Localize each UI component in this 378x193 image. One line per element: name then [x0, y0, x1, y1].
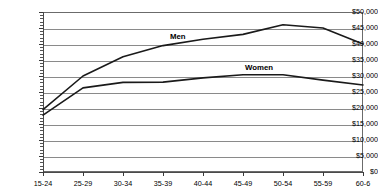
y-axis-label: $30,000 [338, 72, 378, 79]
y-axis-minor-tick [40, 15, 43, 16]
x-axis-tick [363, 172, 364, 176]
y-axis-tick [39, 156, 43, 157]
x-axis-tick [203, 172, 204, 176]
y-axis-minor-tick [40, 143, 43, 144]
gridline [44, 157, 362, 158]
x-axis-tick [163, 172, 164, 176]
y-axis-minor-tick [40, 89, 43, 90]
gridline [44, 29, 362, 30]
y-axis-tick [39, 44, 43, 45]
y-axis-tick [39, 92, 43, 93]
series-label-men: Men [169, 33, 187, 41]
y-axis-label: $10,000 [338, 136, 378, 143]
y-axis-minor-tick [40, 70, 43, 71]
x-axis-tick [323, 172, 324, 176]
gridline [44, 125, 362, 126]
y-axis-minor-tick [40, 31, 43, 32]
y-axis-label: $20,000 [338, 104, 378, 111]
y-axis-label: $40,000 [338, 40, 378, 47]
x-axis-tick [123, 172, 124, 176]
y-axis-tick [39, 28, 43, 29]
y-axis-minor-tick [40, 150, 43, 151]
y-axis-label: $5,000 [338, 152, 378, 159]
x-axis-tick [283, 172, 284, 176]
y-axis-minor-tick [40, 105, 43, 106]
x-axis-tick [243, 172, 244, 176]
y-axis-minor-tick [40, 22, 43, 23]
y-axis-tick [39, 76, 43, 77]
y-axis-minor-tick [40, 57, 43, 58]
y-axis-minor-tick [40, 95, 43, 96]
gridline [44, 61, 362, 62]
y-axis-minor-tick [40, 169, 43, 170]
y-axis-minor-tick [40, 127, 43, 128]
gridline [44, 77, 362, 78]
y-axis-minor-tick [40, 73, 43, 74]
y-axis-minor-tick [40, 146, 43, 147]
y-axis-minor-tick [40, 50, 43, 51]
x-axis-label: 25-29 [74, 180, 92, 188]
gridline [44, 45, 362, 46]
y-axis-label: $45,000 [338, 24, 378, 31]
x-axis-label: 50-54 [274, 180, 292, 188]
y-axis-tick [39, 140, 43, 141]
y-axis-label: $50,000 [338, 8, 378, 15]
y-axis-minor-tick [40, 121, 43, 122]
y-axis-minor-tick [40, 134, 43, 135]
x-axis-tick [43, 172, 44, 176]
plot-area [43, 12, 363, 172]
y-axis-minor-tick [40, 34, 43, 35]
gridline [44, 93, 362, 94]
y-axis-tick [39, 60, 43, 61]
y-axis-minor-tick [40, 166, 43, 167]
y-axis-minor-tick [40, 38, 43, 39]
y-axis-label: $15,000 [338, 120, 378, 127]
x-axis-label: 15-24 [34, 180, 52, 188]
y-axis-minor-tick [40, 66, 43, 67]
y-axis-minor-tick [40, 137, 43, 138]
line-chart: $50,000$45,000$40,000$35,000$30,000$25,0… [0, 0, 378, 193]
y-axis-label: $25,000 [338, 88, 378, 95]
y-axis-tick [39, 108, 43, 109]
y-axis-minor-tick [40, 82, 43, 83]
x-axis-label: 40-44 [194, 180, 212, 188]
y-axis-minor-tick [40, 114, 43, 115]
y-axis-minor-tick [40, 25, 43, 26]
y-axis-minor-tick [40, 41, 43, 42]
y-axis-minor-tick [40, 86, 43, 87]
y-axis-minor-tick [40, 162, 43, 163]
y-axis-minor-tick [40, 98, 43, 99]
y-axis-tick [39, 12, 43, 13]
y-axis-minor-tick [40, 47, 43, 48]
gridline [44, 109, 362, 110]
y-axis-minor-tick [40, 102, 43, 103]
y-axis-minor-tick [40, 111, 43, 112]
y-axis-minor-tick [40, 18, 43, 19]
x-axis-label: 55-59 [314, 180, 332, 188]
y-axis-tick [39, 124, 43, 125]
x-axis-label: 30-34 [114, 180, 132, 188]
series-label-women: Women [244, 64, 274, 72]
y-axis-minor-tick [40, 54, 43, 55]
y-axis-minor-tick [40, 153, 43, 154]
y-axis-line [43, 12, 44, 173]
y-axis-minor-tick [40, 118, 43, 119]
y-axis-minor-tick [40, 159, 43, 160]
x-axis-label: 60-6 [356, 180, 370, 188]
y-axis-minor-tick [40, 130, 43, 131]
y-axis-minor-tick [40, 79, 43, 80]
y-axis-label: $35,000 [338, 56, 378, 63]
gridline [44, 141, 362, 142]
x-axis-tick [83, 172, 84, 176]
x-axis-label: 45-49 [234, 180, 252, 188]
y-axis-minor-tick [40, 63, 43, 64]
x-axis-label: 35-39 [154, 180, 172, 188]
